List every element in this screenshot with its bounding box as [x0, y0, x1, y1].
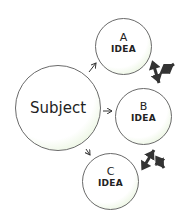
mind-map-diagram: Subject A IDEA B IDEA C IDEA — [0, 0, 191, 224]
double-arrow-b-c-2 — [157, 158, 164, 168]
subject-label: Subject — [15, 101, 101, 116]
idea-b-label: IDEA — [115, 114, 172, 123]
idea-c-letter: C — [82, 166, 139, 177]
idea-a-label: IDEA — [95, 45, 152, 54]
arrow-subject-to-c — [86, 149, 90, 155]
idea-a-letter: A — [95, 32, 152, 43]
double-arrow-a-b-2 — [162, 64, 174, 72]
arrow-subject-to-a — [89, 63, 96, 72]
idea-c-label: IDEA — [82, 179, 139, 188]
double-arrow-a-b-1 — [153, 63, 159, 83]
double-arrow-b-c-1 — [143, 150, 154, 168]
idea-b-letter: B — [115, 101, 172, 112]
